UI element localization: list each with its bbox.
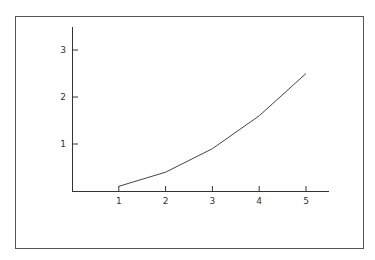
x-axis-ticks: 12345 [116, 186, 309, 206]
chart-container: 12345 123 [0, 0, 375, 260]
chart-frame [16, 17, 364, 249]
y-tick-label: 1 [60, 139, 66, 149]
x-tick-label: 4 [256, 196, 262, 206]
y-tick-label: 2 [60, 92, 66, 102]
x-tick-label: 5 [303, 196, 309, 206]
y-tick-label: 3 [60, 45, 66, 55]
data-line [119, 74, 306, 187]
line-chart: 12345 123 [0, 0, 375, 260]
x-tick-label: 2 [163, 196, 169, 206]
x-tick-label: 1 [116, 196, 122, 206]
x-tick-label: 3 [210, 196, 216, 206]
y-axis-ticks: 123 [60, 45, 78, 149]
